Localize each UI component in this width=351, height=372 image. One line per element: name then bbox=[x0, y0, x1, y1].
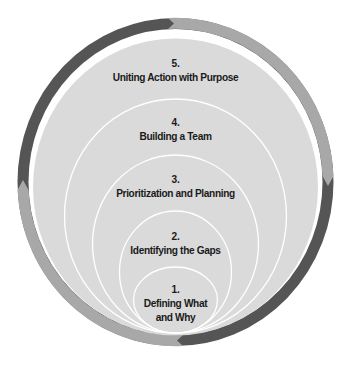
level-1-title-line2: and Why bbox=[21, 310, 330, 324]
level-4-title: Building a Team bbox=[21, 129, 330, 143]
level-3-label: 3. Prioritization and Planning bbox=[21, 172, 330, 200]
level-2-title: Identifying the Gaps bbox=[21, 243, 330, 257]
level-3-number: 3. bbox=[21, 172, 330, 186]
level-1-number: 1. bbox=[21, 282, 330, 296]
level-4-label: 4. Building a Team bbox=[21, 115, 330, 143]
level-2-label: 2. Identifying the Gaps bbox=[21, 229, 330, 257]
level-5-title: Uniting Action with Purpose bbox=[21, 70, 330, 84]
level-5-label: 5. Uniting Action with Purpose bbox=[21, 56, 330, 84]
level-1-label: 1. Defining What and Why bbox=[21, 282, 330, 324]
level-4-number: 4. bbox=[21, 115, 330, 129]
level-3-title: Prioritization and Planning bbox=[21, 186, 330, 200]
level-5-number: 5. bbox=[21, 56, 330, 70]
level-1-title-line1: Defining What bbox=[21, 296, 330, 310]
level-2-number: 2. bbox=[21, 229, 330, 243]
